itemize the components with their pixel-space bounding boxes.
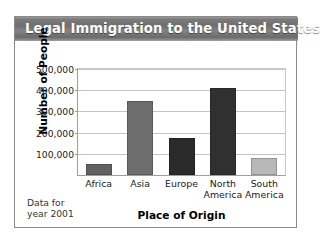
y-tick-label: 400,000 [36,85,74,96]
x-tick-label-europe: Europe [165,179,198,190]
x-tick-label-asia: Asia [130,179,150,190]
y-tick-label: 200,000 [36,127,74,138]
chart-title: Legal Immigration to the United States [25,21,312,36]
y-axis-title: Number of People [37,26,49,136]
x-tick-label-south-america: South America [245,179,284,200]
bar-africa [86,164,112,175]
chart-figure-frame: Legal Immigration to the United States N… [14,16,297,228]
y-tick-label: 500,000 [36,64,74,75]
bar-south-america [251,158,277,175]
x-tick-label-africa: Africa [85,179,112,190]
y-tick-mark [75,111,78,112]
x-axis-title: Place of Origin [77,209,286,221]
gridline [78,90,285,91]
plot-area: 100,000200,000300,000400,000500,000Afric… [77,68,286,176]
chart-annotation-footnote: Data for year 2001 [27,197,74,219]
y-tick-label: 300,000 [36,106,74,117]
gridline [78,133,285,134]
y-tick-label: 100,000 [36,148,74,159]
y-tick-mark [75,133,78,134]
bar-asia [127,101,153,175]
y-tick-mark [75,69,78,70]
chart-title-bar: Legal Immigration to the United States [15,17,298,41]
y-tick-mark [75,90,78,91]
gridline [78,69,285,70]
gridline [78,111,285,112]
y-tick-mark [75,154,78,155]
bar-north-america [210,88,236,175]
x-tick-label-north-america: North America [204,179,243,200]
bar-europe [169,138,195,175]
